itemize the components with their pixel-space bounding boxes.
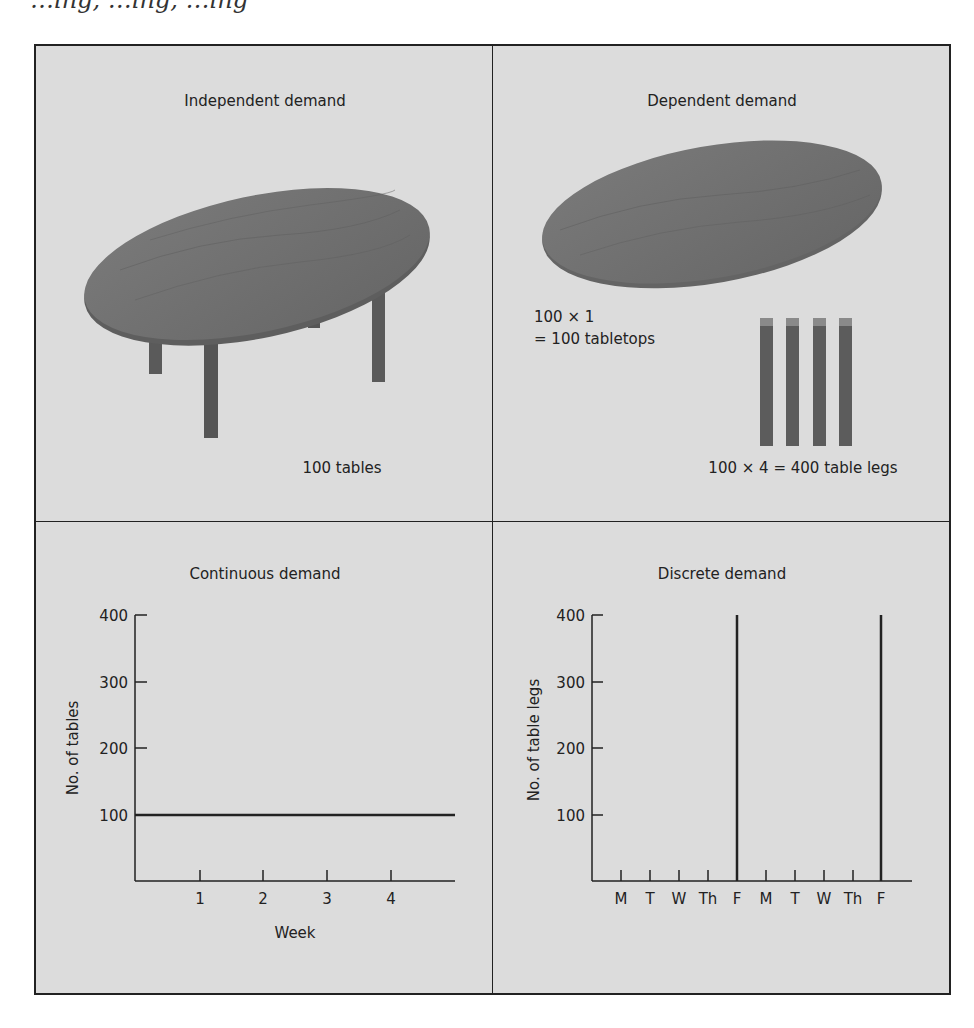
tabletop-icon (531, 117, 893, 312)
table-icon (70, 161, 443, 438)
panel-dependent-demand: Dependent demand 100 × 1 = 100 tabletops… (531, 92, 898, 477)
panel-title: Dependent demand (647, 92, 797, 110)
y-tick-label: 100 (99, 807, 128, 825)
x-tick-label: 2 (258, 890, 268, 908)
tabletops-calc-line1: 100 × 1 (534, 308, 594, 326)
legs-calc-label: 100 × 4 = 400 table legs (708, 459, 897, 477)
y-tick-label: 400 (99, 607, 128, 625)
x-tick-label: W (817, 890, 832, 908)
x-tick-label: T (644, 890, 655, 908)
panel-title: Continuous demand (189, 565, 340, 583)
y-axis-title: No. of table legs (525, 679, 543, 802)
independent-quantity-label: 100 tables (302, 459, 381, 477)
x-tick-label: M (615, 890, 628, 908)
y-tick-label: 200 (99, 740, 128, 758)
panel-discrete-demand: Discrete demand 400 300 200 100 M T W Th… (525, 565, 912, 908)
figure-art: Independent demand 100 tables Dependent … (0, 0, 974, 1028)
panel-independent-demand: Independent demand 100 tables (70, 92, 443, 477)
y-tick-label: 400 (556, 607, 585, 625)
y-tick-label: 200 (556, 740, 585, 758)
y-axis-title: No. of tables (64, 700, 82, 795)
panel-title: Discrete demand (658, 565, 786, 583)
panel-title: Independent demand (184, 92, 345, 110)
panel-continuous-demand: Continuous demand 400 300 200 100 1 2 3 … (64, 565, 455, 942)
x-tick-label: 3 (322, 890, 332, 908)
x-tick-label: T (789, 890, 800, 908)
x-tick-label: W (672, 890, 687, 908)
y-tick-label: 300 (99, 674, 128, 692)
x-tick-label: F (733, 890, 742, 908)
x-tick-label: Th (843, 890, 863, 908)
x-tick-label: 4 (386, 890, 396, 908)
y-tick-label: 300 (556, 674, 585, 692)
y-tick-label: 100 (556, 807, 585, 825)
x-tick-label: M (760, 890, 773, 908)
tabletops-calc-line2: = 100 tabletops (534, 330, 655, 348)
x-tick-label: Th (698, 890, 718, 908)
x-tick-label: 1 (195, 890, 205, 908)
table-legs-icon (760, 318, 852, 446)
x-tick-label: F (877, 890, 886, 908)
x-axis-title: Week (274, 924, 315, 942)
